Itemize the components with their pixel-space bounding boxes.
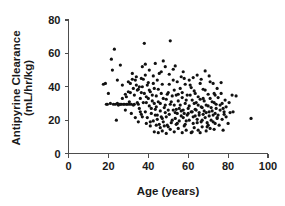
data-point bbox=[143, 92, 146, 95]
data-point bbox=[208, 74, 211, 77]
data-point bbox=[146, 116, 149, 119]
data-point bbox=[186, 114, 189, 117]
data-point bbox=[213, 128, 216, 131]
data-point bbox=[134, 78, 137, 81]
data-point bbox=[199, 131, 202, 134]
data-point bbox=[204, 69, 207, 72]
y-axis-title-line2: (mL/hr/kg) bbox=[22, 60, 34, 116]
data-point bbox=[200, 78, 203, 81]
data-point bbox=[128, 100, 131, 103]
data-point bbox=[135, 75, 138, 78]
data-point bbox=[195, 109, 198, 112]
data-point bbox=[141, 65, 144, 68]
data-point bbox=[145, 122, 148, 125]
data-point bbox=[208, 110, 211, 113]
data-point bbox=[197, 95, 200, 98]
data-point bbox=[181, 96, 184, 99]
data-point bbox=[154, 62, 157, 65]
data-point bbox=[137, 88, 140, 91]
data-point bbox=[157, 131, 160, 134]
data-point bbox=[223, 110, 226, 113]
data-point bbox=[106, 103, 109, 106]
data-point bbox=[192, 76, 195, 79]
data-point bbox=[234, 94, 237, 97]
data-point bbox=[173, 88, 176, 91]
data-point bbox=[187, 107, 190, 110]
y-tick-label: 80 bbox=[48, 14, 60, 26]
x-tick-label: 60 bbox=[182, 160, 194, 172]
data-point bbox=[214, 122, 217, 125]
data-point bbox=[205, 129, 208, 132]
y-axis: 020406080 bbox=[48, 14, 68, 160]
data-point bbox=[209, 127, 212, 130]
data-point bbox=[131, 72, 134, 75]
data-point bbox=[164, 65, 167, 68]
data-point bbox=[191, 99, 194, 102]
data-point bbox=[190, 110, 193, 113]
x-tick-label: 80 bbox=[222, 160, 234, 172]
data-point bbox=[133, 93, 136, 96]
data-point bbox=[119, 63, 122, 66]
data-point bbox=[121, 97, 124, 100]
data-point bbox=[221, 118, 224, 121]
data-point bbox=[165, 115, 168, 118]
data-point bbox=[194, 92, 197, 95]
data-point bbox=[208, 114, 211, 117]
data-point bbox=[124, 109, 127, 112]
data-point bbox=[156, 78, 159, 81]
x-tick-label: 20 bbox=[102, 160, 114, 172]
data-point bbox=[107, 92, 110, 95]
data-point bbox=[183, 124, 186, 127]
data-point bbox=[176, 112, 179, 115]
data-point bbox=[125, 95, 128, 98]
data-point bbox=[149, 90, 152, 93]
data-point bbox=[148, 104, 151, 107]
data-point bbox=[137, 120, 140, 123]
data-point bbox=[201, 125, 204, 128]
data-point bbox=[162, 59, 165, 62]
data-point bbox=[153, 102, 156, 105]
data-point bbox=[138, 107, 141, 110]
data-point bbox=[144, 63, 147, 66]
x-tick-group: 020406080100 bbox=[65, 154, 277, 172]
data-point bbox=[132, 87, 135, 90]
data-point bbox=[185, 129, 188, 132]
data-point bbox=[175, 108, 178, 111]
data-point bbox=[184, 83, 187, 86]
data-point bbox=[192, 122, 195, 125]
data-point bbox=[199, 98, 202, 101]
data-point bbox=[163, 106, 166, 109]
data-point bbox=[204, 116, 207, 119]
data-point bbox=[190, 86, 193, 89]
data-point bbox=[197, 104, 200, 107]
data-point bbox=[160, 92, 163, 95]
data-point bbox=[152, 82, 155, 85]
data-point bbox=[171, 94, 174, 97]
data-point bbox=[172, 109, 175, 112]
data-point bbox=[185, 119, 188, 122]
data-point bbox=[172, 78, 175, 81]
data-point bbox=[228, 101, 231, 104]
data-point bbox=[197, 129, 200, 132]
data-point bbox=[181, 91, 184, 94]
data-point bbox=[199, 82, 202, 85]
data-point bbox=[249, 117, 252, 120]
data-point bbox=[140, 113, 143, 116]
data-point bbox=[186, 93, 189, 96]
y-tick-group: 020406080 bbox=[48, 14, 68, 160]
data-point bbox=[225, 115, 228, 118]
scatter-points-layer bbox=[102, 39, 253, 135]
data-point bbox=[193, 126, 196, 129]
data-point bbox=[174, 64, 177, 67]
data-point bbox=[165, 132, 168, 135]
data-point bbox=[182, 116, 185, 119]
data-point bbox=[115, 119, 118, 122]
data-point bbox=[179, 87, 182, 90]
data-point bbox=[200, 120, 203, 123]
data-point bbox=[160, 115, 163, 118]
data-point bbox=[174, 117, 177, 120]
data-point bbox=[211, 109, 214, 112]
data-point bbox=[150, 112, 153, 115]
data-point bbox=[207, 93, 210, 96]
data-point bbox=[150, 107, 153, 110]
